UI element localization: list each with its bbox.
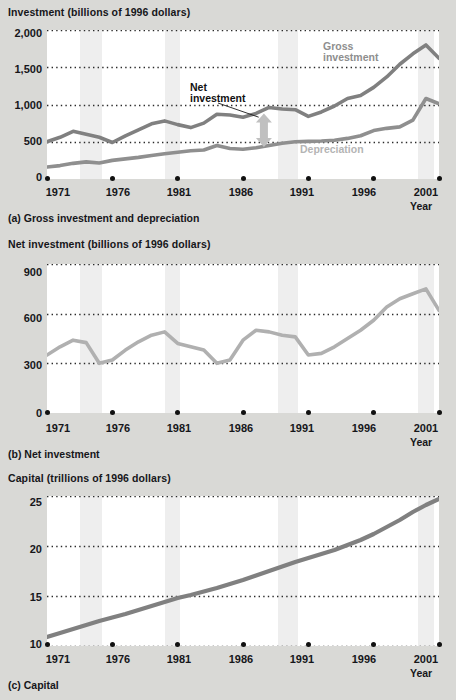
panel-c-ytick-20: 20: [0, 543, 42, 555]
panel-b-ytick-0: 0: [0, 407, 42, 419]
xtick-dot-1981: [175, 642, 180, 647]
panel-agrossinvestmentanddepreciation-svg: [47, 30, 439, 179]
panel-c-xtick-1976: 1976: [93, 653, 143, 665]
xtick-dot-1996: [371, 642, 376, 647]
panel-b-ytick-600: 600: [0, 312, 42, 324]
xtick-dot-2001: [437, 176, 442, 181]
panel-a-ytick-1000: 1,000: [0, 99, 42, 111]
panel-b-xtick-1986: 1986: [216, 422, 266, 434]
xtick-dot-1986: [241, 410, 246, 415]
panel-a-ytick-1500: 1,500: [0, 63, 42, 75]
panel-b-xtick-2001: 2001: [401, 422, 451, 434]
panel-a-plot-area: [47, 30, 439, 179]
panel-b-ytick-300: 300: [0, 359, 42, 371]
panel-c-xtick-1996: 1996: [339, 653, 389, 665]
panel-b-xaxis-label: Year: [410, 436, 432, 448]
xtick-dot-1976: [110, 642, 115, 647]
xtick-dot-1991: [306, 642, 311, 647]
panel-c-axis-title: Capital (trillions of 1996 dollars): [8, 472, 171, 484]
panel-c-ytick-25: 25: [0, 496, 42, 508]
panel-b-ytick-900: 900: [0, 266, 42, 278]
panel-bnetinvestment-svg: [47, 264, 439, 413]
panel-a-xtick-1976: 1976: [93, 186, 143, 198]
xtick-dot-1991: [306, 410, 311, 415]
panel-a-xaxis-label: Year: [410, 200, 432, 212]
panel-gross-investment-depreciation: Investment (billions of 1996 dollars) 2,…: [0, 0, 456, 230]
panel-b-caption: (b) Net investment: [8, 448, 100, 460]
xtick-dot-1971: [45, 642, 50, 647]
net-investment-gap-arrow: [256, 113, 272, 147]
annotation-net-investment-line2: investment: [190, 93, 245, 105]
xtick-dot-2001: [437, 410, 442, 415]
panel-b-xtick-1991: 1991: [277, 422, 327, 434]
panel-b-xtick-1996: 1996: [339, 422, 389, 434]
xtick-dot-1996: [371, 176, 376, 181]
panel-a-ytick-500: 500: [0, 135, 42, 147]
panel-c-xtick-2001: 2001: [401, 653, 451, 665]
xtick-dot-1986: [241, 176, 246, 181]
panel-net-investment: Net investment (billions of 1996 dollars…: [0, 230, 456, 460]
panel-a-xtick-1991: 1991: [277, 186, 327, 198]
xtick-dot-1976: [110, 410, 115, 415]
annotation-depreciation: Depreciation: [300, 144, 364, 156]
panel-c-xtick-1971: 1971: [33, 653, 83, 665]
panel-capital: Capital (trillions of 1996 dollars) 25 2…: [0, 460, 456, 700]
panel-b-xtick-1981: 1981: [154, 422, 204, 434]
panel-c-xtick-1991: 1991: [277, 653, 327, 665]
xtick-dot-1971: [45, 410, 50, 415]
xtick-dot-1996: [371, 410, 376, 415]
panel-c-plot-area: [47, 496, 439, 646]
series-net-investment: [47, 289, 439, 364]
panel-b-axis-title: Net investment (billions of 1996 dollars…: [8, 238, 210, 250]
panel-c-xtick-1981: 1981: [154, 653, 204, 665]
xtick-dot-1991: [306, 176, 311, 181]
series-capital: [47, 499, 439, 637]
panel-b-xtick-1971: 1971: [33, 422, 83, 434]
panel-c-ytick-10: 10: [0, 638, 42, 650]
xtick-dot-1971: [45, 176, 50, 181]
xtick-dot-1981: [175, 176, 180, 181]
panel-c-caption: (c) Capital: [8, 679, 59, 691]
xtick-dot-1976: [110, 176, 115, 181]
panel-c-ytick-15: 15: [0, 591, 42, 603]
panel-a-xtick-1981: 1981: [154, 186, 204, 198]
panel-c-xtick-1986: 1986: [216, 653, 266, 665]
panel-a-xtick-1996: 1996: [339, 186, 389, 198]
panel-a-ytick-2000: 2,000: [0, 27, 42, 39]
panel-a-xtick-1986: 1986: [216, 186, 266, 198]
panel-a-xtick-2001: 2001: [401, 186, 451, 198]
panel-c-xaxis-label: Year: [410, 667, 432, 679]
panel-b-plot-area: [47, 264, 439, 413]
xtick-dot-1986: [241, 642, 246, 647]
panel-a-ytick-0: 0: [0, 171, 42, 183]
series-depreciation: [47, 99, 439, 168]
annotation-gross-investment-line2: investment: [323, 52, 378, 64]
panel-ccapital-svg: [47, 496, 439, 646]
panel-a-xtick-1971: 1971: [33, 186, 83, 198]
panel-b-xtick-1976: 1976: [93, 422, 143, 434]
panel-a-axis-title: Investment (billions of 1996 dollars): [8, 6, 190, 18]
xtick-dot-1981: [175, 410, 180, 415]
xtick-dot-2001: [437, 642, 442, 647]
panel-a-caption: (a) Gross investment and depreciation: [8, 212, 199, 224]
